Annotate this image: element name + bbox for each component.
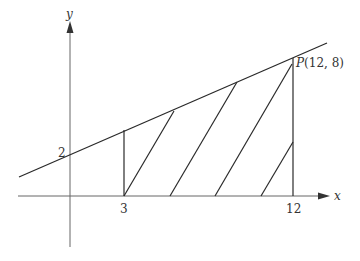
- hatch-line: [124, 111, 174, 196]
- intercept-label: 2: [58, 146, 66, 160]
- diagram-canvas: y x 3 12 2 P(12, 8): [0, 0, 360, 261]
- hatch-line: [170, 82, 237, 196]
- hatching: [124, 64, 293, 196]
- hatch-line: [261, 142, 293, 196]
- x-axis-label: x: [334, 189, 341, 203]
- x-axis-arrow-icon: [318, 193, 330, 200]
- point-coords: (12, 8): [304, 56, 344, 70]
- y-axis-label: y: [65, 7, 73, 21]
- tick-label-12: 12: [286, 202, 301, 216]
- tick-label-3: 3: [120, 202, 128, 216]
- hatch-line: [215, 64, 292, 196]
- point-label: P(12, 8): [295, 56, 344, 70]
- y-axis-arrow-icon: [67, 21, 74, 33]
